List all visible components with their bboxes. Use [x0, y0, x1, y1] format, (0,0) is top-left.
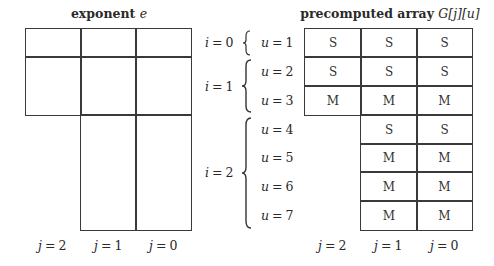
right-panel-title: precomputed array G[j][u]	[300, 6, 480, 21]
g-cell-u2-j2: S	[304, 56, 362, 87]
u-label-3: u=3	[261, 93, 294, 108]
brace-icon-i1	[240, 58, 254, 114]
g-cell-u2-j1: S	[360, 56, 418, 87]
left-col-label-j2: j=2	[38, 238, 66, 253]
g-cell-u7-j1: M	[360, 200, 418, 231]
g-cell-u6-j0: M	[416, 171, 473, 202]
u-label-5: u=5	[261, 150, 294, 165]
exp-cell-i1-j1	[80, 56, 137, 116]
g-cell-u1-j0: S	[416, 28, 473, 58]
left-title-text: exponent	[71, 6, 135, 21]
exp-cell-i2-j0	[135, 114, 192, 231]
exp-cell-i1-j0	[135, 56, 192, 116]
u-label-2: u=2	[261, 64, 294, 79]
exp-cell-i0-j2	[25, 28, 82, 58]
g-cell-u1-j2: S	[304, 28, 362, 58]
u-label-4: u=4	[261, 122, 294, 137]
i-label-0: i=0	[205, 35, 233, 50]
g-cell-u3-j2: M	[304, 85, 362, 116]
u-label-7: u=7	[261, 208, 294, 223]
right-title-text: precomputed array	[300, 6, 434, 21]
right-col-label-j2: j=2	[318, 238, 346, 253]
brace-icon-i0	[240, 29, 254, 57]
g-cell-u3-j1: M	[360, 85, 418, 116]
brace-icon-i2	[240, 116, 254, 230]
i-label-1: i=1	[205, 79, 233, 94]
u-label-1: u=1	[261, 35, 294, 50]
g-cell-u2-j0: S	[416, 56, 473, 87]
exp-cell-i2-j1	[80, 114, 137, 231]
g-cell-u7-j0: M	[416, 200, 473, 231]
exp-cell-i0-j0	[135, 28, 192, 58]
right-title-var: G[j][u]	[438, 6, 479, 21]
g-cell-u3-j0: M	[416, 85, 473, 116]
g-cell-u6-j1: M	[360, 171, 418, 202]
exp-cell-i1-j2	[25, 56, 82, 116]
g-cell-u5-j1: M	[360, 143, 418, 173]
right-col-label-j0: j=0	[430, 238, 458, 253]
g-cell-u4-j0: S	[416, 114, 473, 145]
g-cell-u4-j1: S	[360, 114, 418, 145]
right-col-label-j1: j=1	[374, 238, 402, 253]
u-label-6: u=6	[261, 179, 294, 194]
exp-cell-i0-j1	[80, 28, 137, 58]
left-col-label-j1: j=1	[94, 238, 122, 253]
g-cell-u5-j0: M	[416, 143, 473, 173]
left-panel-title: exponent e	[25, 6, 193, 21]
i-label-2: i=2	[205, 165, 233, 180]
g-cell-u1-j1: S	[360, 28, 418, 58]
left-col-label-j0: j=0	[149, 238, 177, 253]
left-title-var: e	[140, 6, 147, 21]
